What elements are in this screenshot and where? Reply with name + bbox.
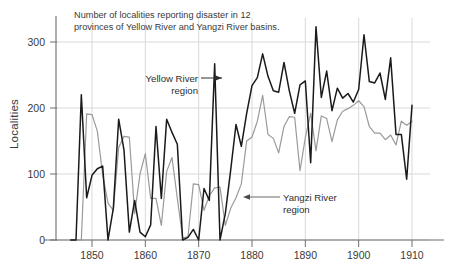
y-tick-label-100: 100 [27, 168, 45, 180]
x-tick-label-1880: 1880 [240, 249, 264, 261]
chart-title-line-2: provinces of Yellow River and Yangzi Riv… [74, 22, 279, 34]
arrow-head-yellow-river [215, 75, 222, 81]
axis-ticks [50, 42, 412, 247]
gridlines [56, 18, 430, 240]
x-tick-label-1870: 1870 [187, 249, 211, 261]
x-tick-label-1900: 1900 [347, 249, 371, 261]
x-tick-label-1850: 1850 [80, 249, 104, 261]
annotation-yellow-river: Yellow River region [120, 73, 198, 97]
annotation-yangzi-river: Yangzi River region [283, 192, 371, 216]
y-tick-label-0: 0 [39, 234, 45, 246]
annotation-yellow-river-line-2: region [120, 85, 198, 97]
y-tick-label-300: 300 [27, 36, 45, 48]
arrow-head-yangzi-river [243, 194, 250, 200]
x-tick-label-1890: 1890 [294, 249, 318, 261]
chart-title: Number of localities reporting disaster … [74, 10, 279, 33]
annotation-yangzi-river-line-1: Yangzi River [283, 192, 371, 204]
y-tick-label-200: 200 [27, 102, 45, 114]
axis-tick-labels: 01002003001850186018701880189019001910 [27, 36, 423, 261]
line-chart-svg: 01002003001850186018701880189019001910 [0, 0, 451, 274]
annotation-yellow-river-line-1: Yellow River [120, 73, 198, 85]
series-line-yangzi-river-region [71, 95, 412, 240]
annotation-yangzi-river-line-2: region [283, 204, 371, 216]
chart-container: 01002003001850186018701880189019001910 N… [0, 0, 451, 274]
x-tick-label-1860: 1860 [134, 249, 158, 261]
chart-title-line-1: Number of localities reporting disaster … [74, 10, 279, 22]
x-tick-label-1910: 1910 [400, 249, 424, 261]
